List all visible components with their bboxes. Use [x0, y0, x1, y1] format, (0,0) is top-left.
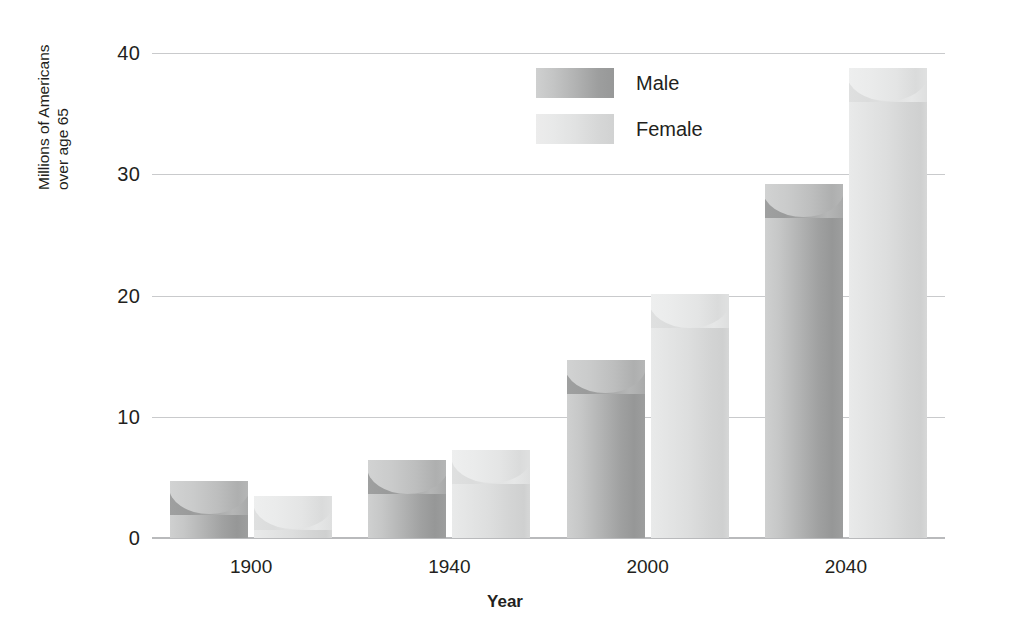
- bar-female-2000: [651, 294, 729, 538]
- bar-cylinder-top: [849, 68, 927, 102]
- x-axis-title: Year: [0, 592, 1010, 612]
- legend-swatch-female-icon: [536, 114, 614, 144]
- legend-label-female: Female: [636, 112, 703, 146]
- x-axis-tick-label: 1940: [379, 556, 519, 578]
- y-axis-title: Millions of Americans over age 65: [34, 0, 72, 190]
- bar-male-2040: [765, 184, 843, 538]
- legend-item-female: Female: [536, 112, 766, 152]
- bar-cylinder-ellipse: [170, 481, 248, 514]
- bar-cylinder-top: [567, 360, 645, 394]
- gridline: [152, 174, 945, 175]
- y-axis-tick-label: 30: [94, 163, 140, 186]
- bar-cylinder-top: [368, 460, 446, 494]
- y-axis-tick-label: 10: [94, 406, 140, 429]
- x-axis-tick-label: 1900: [181, 556, 321, 578]
- bar-body: [765, 184, 843, 538]
- bar-cylinder-ellipse: [368, 460, 446, 493]
- bar-cylinder-top: [170, 481, 248, 515]
- y-axis-tick-label: 20: [94, 285, 140, 308]
- legend-item-male: Male: [536, 66, 766, 106]
- x-axis-tick-label: 2000: [578, 556, 718, 578]
- bar-body: [651, 294, 729, 538]
- legend-label-male: Male: [636, 66, 679, 100]
- legend: Male Female: [536, 66, 766, 158]
- bar-cylinder-top: [651, 294, 729, 328]
- bar-cylinder-ellipse: [849, 68, 927, 101]
- y-axis-title-line-2: over age 65: [53, 0, 72, 190]
- y-axis-title-line-1: Millions of Americans: [34, 0, 53, 190]
- bar-cylinder-ellipse: [452, 450, 530, 483]
- x-axis-tick-label: 2040: [776, 556, 916, 578]
- bar-female-1900: [254, 496, 332, 538]
- bar-cylinder-ellipse: [254, 496, 332, 529]
- gridline: [152, 53, 945, 54]
- bar-cylinder-ellipse: [765, 184, 843, 217]
- bar-cylinder-top: [254, 496, 332, 530]
- bar-cylinder-top: [452, 450, 530, 484]
- bar-female-2040: [849, 68, 927, 538]
- bar-cylinder-ellipse: [567, 360, 645, 393]
- bar-male-1940: [368, 460, 446, 538]
- y-axis-tick-label: 40: [94, 42, 140, 65]
- bar-cylinder-ellipse: [651, 294, 729, 327]
- bar-chart: Millions of Americans over age 65 010203…: [0, 0, 1010, 630]
- y-axis-tick-label: 0: [94, 527, 140, 550]
- bar-female-1940: [452, 450, 530, 539]
- bar-male-1900: [170, 481, 248, 538]
- bar-cylinder-top: [765, 184, 843, 218]
- legend-swatch-male-icon: [536, 68, 614, 98]
- bar-body: [849, 68, 927, 538]
- bar-male-2000: [567, 360, 645, 538]
